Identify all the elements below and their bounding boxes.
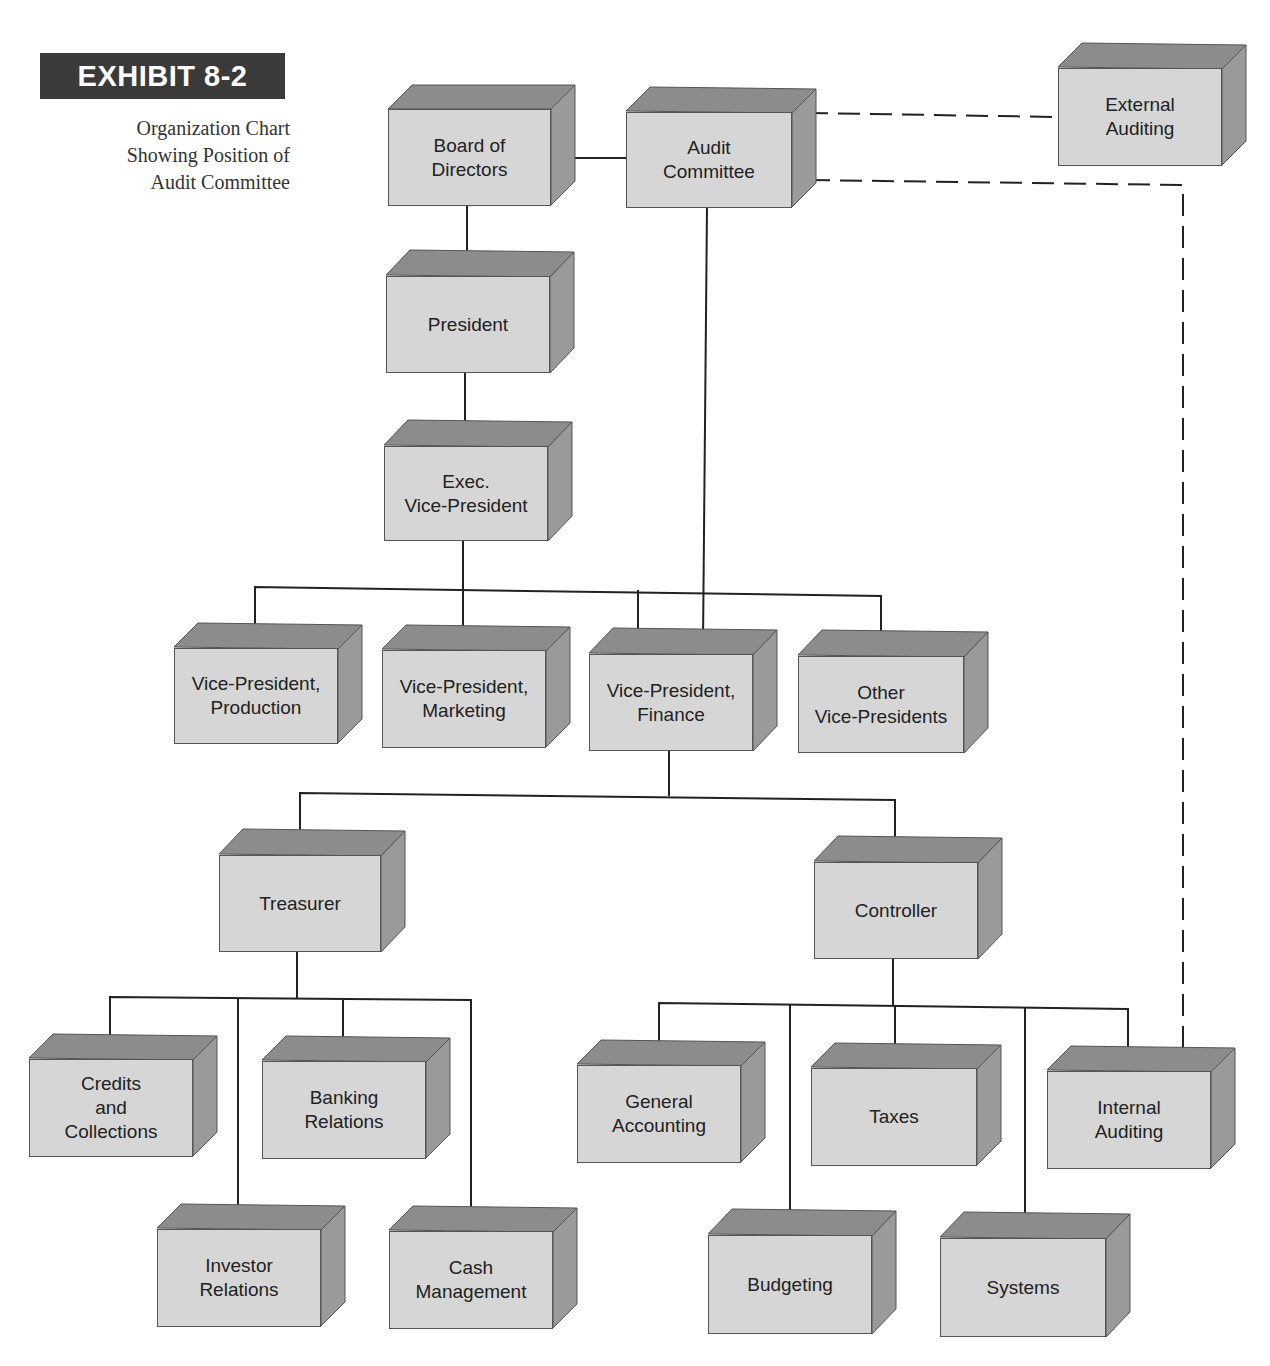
node-treasurer: Treasurer (219, 829, 407, 953)
line-audit-vpfinance (703, 207, 707, 642)
node-label: Controller (814, 862, 978, 959)
node-label: Vice-President, Finance (589, 654, 753, 751)
node-label: Investor Relations (157, 1229, 321, 1327)
node-president: President (386, 250, 576, 374)
node-label: External Auditing (1058, 68, 1222, 166)
node-label: Internal Auditing (1047, 1071, 1211, 1169)
node-label: Vice-President, Production (174, 648, 338, 744)
node-systems: Systems (940, 1212, 1132, 1338)
node-label: Audit Committee (626, 112, 792, 208)
node-label: Board of Directors (388, 109, 551, 206)
node-other-vice-presidents: Other Vice-Presidents (798, 630, 990, 754)
node-vp-marketing: Vice-President, Marketing (382, 625, 572, 749)
node-label: Treasurer (219, 855, 381, 952)
node-vp-production: Vice-President, Production (174, 623, 364, 745)
node-label: Vice-President, Marketing (382, 650, 546, 748)
node-external-auditing: External Auditing (1058, 43, 1248, 167)
node-board-of-directors: Board of Directors (388, 85, 578, 207)
node-investor-relations: Investor Relations (157, 1204, 347, 1328)
node-cash-management: Cash Management (389, 1206, 579, 1330)
node-label: Exec. Vice-President (384, 446, 548, 541)
node-exec-vice-president: Exec. Vice-President (384, 420, 574, 542)
node-label: General Accounting (577, 1065, 741, 1163)
node-label: Cash Management (389, 1231, 553, 1329)
node-label: Systems (940, 1238, 1106, 1337)
node-budgeting: Budgeting (708, 1209, 898, 1335)
node-vp-finance: Vice-President, Finance (589, 628, 779, 752)
node-label: Credits and Collections (29, 1059, 193, 1157)
node-label: President (386, 276, 550, 373)
node-taxes: Taxes (811, 1043, 1003, 1167)
node-internal-auditing: Internal Auditing (1047, 1046, 1237, 1170)
node-credits-and-collections: Credits and Collections (29, 1034, 219, 1158)
node-label: Taxes (811, 1068, 977, 1166)
node-label: Budgeting (708, 1235, 872, 1334)
node-label: Banking Relations (262, 1061, 426, 1159)
node-label: Other Vice-Presidents (798, 656, 964, 753)
node-banking-relations: Banking Relations (262, 1036, 452, 1160)
node-general-accounting: General Accounting (577, 1040, 767, 1164)
node-audit-committee: Audit Committee (626, 87, 818, 209)
node-controller: Controller (814, 836, 1004, 960)
dashed-audit-external (806, 113, 1058, 117)
